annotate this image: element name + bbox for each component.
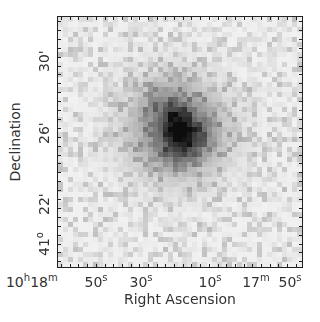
tick-mark xyxy=(296,264,297,268)
y-tick-label: 22' xyxy=(36,193,52,215)
tick-mark xyxy=(299,39,303,40)
tick-mark xyxy=(57,119,61,120)
tick-mark xyxy=(57,21,61,22)
tick-mark xyxy=(252,264,253,268)
tick-mark xyxy=(57,172,61,173)
tick-mark xyxy=(226,264,227,268)
tick-mark xyxy=(261,264,262,268)
tick-mark xyxy=(105,16,106,20)
tick-mark xyxy=(57,235,61,236)
tick-mark xyxy=(131,16,132,20)
x-axis-label: Right Ascension xyxy=(124,291,236,307)
tick-mark xyxy=(57,252,61,253)
tick-mark xyxy=(57,163,61,164)
tick-mark xyxy=(226,16,227,20)
y-axis-label: Declination xyxy=(7,102,23,181)
tick-mark xyxy=(57,244,61,245)
tick-mark xyxy=(148,16,149,20)
tick-mark xyxy=(299,110,303,111)
tick-mark xyxy=(299,252,303,253)
tick-mark xyxy=(57,74,61,75)
tick-mark xyxy=(57,261,61,262)
tick-mark xyxy=(299,30,303,31)
y-tick-label: 30' xyxy=(36,50,52,72)
tick-mark xyxy=(113,16,114,20)
tick-mark xyxy=(70,264,71,268)
tick-mark xyxy=(299,199,303,200)
tick-mark xyxy=(183,264,184,268)
tick-mark xyxy=(122,16,123,20)
tick-mark xyxy=(191,264,192,268)
tick-mark xyxy=(105,264,106,268)
tick-mark xyxy=(57,48,61,49)
tick-mark xyxy=(270,264,271,268)
tick-mark xyxy=(209,264,210,268)
tick-mark xyxy=(299,163,303,164)
tick-mark xyxy=(57,57,61,58)
tick-mark xyxy=(87,16,88,20)
x-tick-label: 17m xyxy=(242,274,270,290)
tick-mark xyxy=(235,16,236,20)
tick-mark xyxy=(57,110,61,111)
tick-mark xyxy=(299,21,303,22)
tick-mark xyxy=(200,264,201,268)
tick-mark xyxy=(96,264,97,268)
tick-mark xyxy=(278,264,279,268)
plot-area xyxy=(57,16,303,268)
tick-mark xyxy=(57,30,61,31)
x-tick-label: 50s xyxy=(84,274,107,290)
tick-mark xyxy=(113,264,114,268)
tick-mark xyxy=(96,16,97,20)
tick-mark xyxy=(57,190,61,191)
tick-mark xyxy=(218,264,219,268)
tick-mark xyxy=(299,217,303,218)
x-tick-label: 30s xyxy=(129,274,152,290)
tick-mark xyxy=(183,16,184,20)
tick-mark xyxy=(287,16,288,20)
tick-mark xyxy=(200,16,201,20)
tick-mark xyxy=(299,172,303,173)
tick-mark xyxy=(57,92,61,93)
tick-mark xyxy=(57,128,61,129)
tick-mark xyxy=(299,146,303,147)
tick-mark xyxy=(218,16,219,20)
tick-mark xyxy=(299,235,303,236)
tick-mark xyxy=(299,181,303,182)
x-tick-label: 10s xyxy=(198,274,221,290)
tick-mark xyxy=(139,264,140,268)
tick-mark xyxy=(278,16,279,20)
tick-mark xyxy=(191,16,192,20)
tick-mark xyxy=(157,16,158,20)
y-tick-label: 26' xyxy=(36,122,52,144)
tick-mark xyxy=(157,264,158,268)
tick-mark xyxy=(61,264,62,268)
tick-mark xyxy=(299,57,303,58)
tick-mark xyxy=(70,16,71,20)
tick-mark xyxy=(299,128,303,129)
tick-mark xyxy=(174,16,175,20)
tick-mark xyxy=(299,92,303,93)
tick-mark xyxy=(57,137,61,138)
tick-mark xyxy=(131,264,132,268)
tick-mark xyxy=(122,264,123,268)
tick-mark xyxy=(299,244,303,245)
tick-mark xyxy=(165,16,166,20)
tick-mark xyxy=(165,264,166,268)
tick-mark xyxy=(287,264,288,268)
tick-mark xyxy=(78,16,79,20)
tick-mark xyxy=(299,74,303,75)
tick-mark xyxy=(299,137,303,138)
tick-mark xyxy=(299,119,303,120)
tick-mark xyxy=(57,155,61,156)
tick-mark xyxy=(299,66,303,67)
tick-mark xyxy=(252,16,253,20)
tick-mark xyxy=(209,16,210,20)
tick-mark xyxy=(299,83,303,84)
tick-mark xyxy=(299,101,303,102)
tick-mark xyxy=(61,16,62,20)
tick-mark xyxy=(57,208,61,209)
tick-mark xyxy=(299,155,303,156)
tick-mark xyxy=(299,226,303,227)
tick-mark xyxy=(57,146,61,147)
tick-mark xyxy=(270,16,271,20)
